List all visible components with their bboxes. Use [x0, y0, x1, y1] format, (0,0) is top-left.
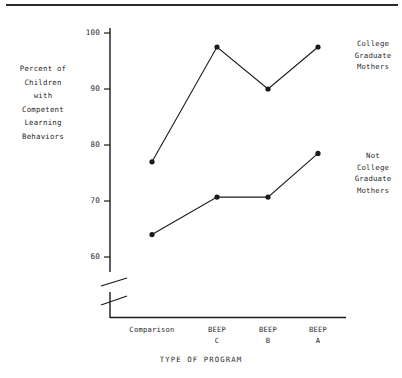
plot-area: [0, 0, 402, 378]
y-tick-label: 70: [78, 197, 100, 205]
x-category-label-line: Comparison: [117, 325, 187, 336]
series-layer: [149, 44, 320, 237]
series-annotation-college-graduate-mothers: College Graduate Mothers: [345, 38, 401, 73]
series-line: [152, 47, 318, 162]
data-point-marker: [265, 86, 270, 91]
x-axis-title: TYPE OF PROGRAM: [0, 355, 402, 364]
annotation-line: Mothers: [345, 185, 401, 197]
data-point-marker: [315, 44, 320, 49]
chart-figure: Percent of Children with Competent Learn…: [0, 0, 402, 378]
annotation-line: College: [345, 38, 401, 50]
data-point-marker: [149, 159, 154, 164]
data-point-marker: [214, 44, 219, 49]
y-tick-label: 60: [78, 253, 100, 261]
y-tick-label: 80: [78, 141, 100, 149]
annotation-line: Not: [345, 150, 401, 162]
x-category-label: BEEPA: [283, 325, 353, 346]
series-annotation-not-college-graduate-mothers: Not College Graduate Mothers: [345, 150, 401, 196]
data-point-marker: [315, 151, 320, 156]
annotation-line: Graduate: [345, 50, 401, 62]
x-category-label-line: BEEP: [283, 325, 353, 336]
series-line: [152, 153, 318, 234]
annotation-line: College: [345, 162, 401, 174]
y-tick-label: 90: [78, 85, 100, 93]
axis-break-slash-upper: [101, 278, 127, 286]
annotation-line: Graduate: [345, 173, 401, 185]
data-point-marker: [149, 232, 154, 237]
data-point-marker: [214, 194, 219, 199]
x-category-label-line: A: [283, 336, 353, 347]
axis-break-slash-lower: [101, 296, 127, 305]
y-tick-label: 100: [78, 29, 100, 37]
annotation-line: Mothers: [345, 61, 401, 73]
x-category-label: Comparison: [117, 325, 187, 336]
y-axis-ticks: [104, 33, 110, 257]
data-point-marker: [265, 194, 270, 199]
